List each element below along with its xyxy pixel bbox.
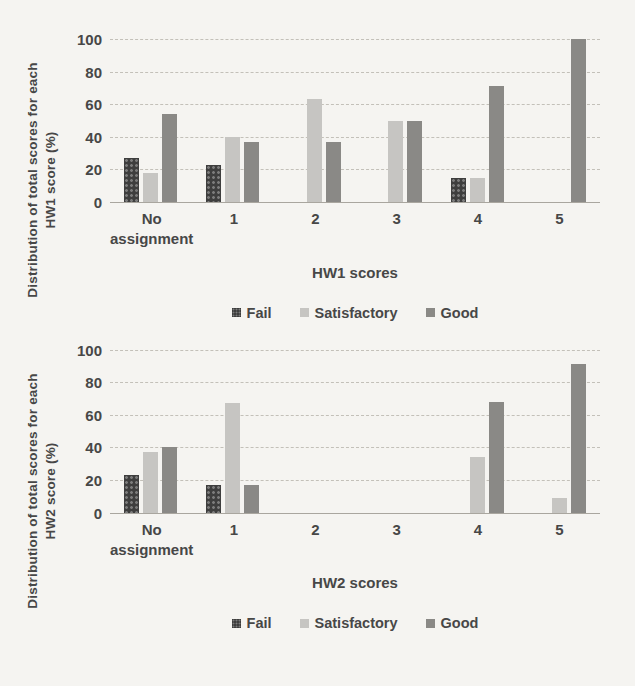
bar-good <box>162 447 177 512</box>
x-tick-label: 4 <box>437 209 518 250</box>
bar-satisfactory <box>225 137 240 202</box>
x-tick-label: 4 <box>437 520 518 561</box>
y-tick-label: 0 <box>94 195 102 210</box>
y-tick-label: 20 <box>85 473 102 488</box>
bar-group <box>518 40 600 203</box>
hw1-plot-area <box>110 40 600 203</box>
legend-label: Good <box>441 305 479 321</box>
bar-satisfactory <box>143 452 158 512</box>
hw1-y-axis: 020406080100 <box>70 40 110 203</box>
legend-item-good: Good <box>426 305 479 321</box>
hw2-y-axis-title-column: Distribution of total scores for each HW… <box>14 351 70 632</box>
y-tick-label: 100 <box>77 343 102 358</box>
y-tick-label: 60 <box>85 97 102 112</box>
bar-group <box>518 351 600 514</box>
hw2-y-axis: 020406080100 <box>70 351 110 514</box>
legend-item-satisfactory: Satisfactory <box>300 305 398 321</box>
hw2-legend: FailSatisfactoryGood <box>110 615 600 631</box>
legend-item-fail: Fail <box>232 305 272 321</box>
legend-swatch-icon <box>300 308 309 317</box>
bar-satisfactory <box>470 178 485 202</box>
y-tick-label: 20 <box>85 162 102 177</box>
bar-satisfactory <box>470 457 485 512</box>
bar-good <box>244 485 259 513</box>
bar-group <box>355 40 437 203</box>
bar-good <box>162 114 177 202</box>
y-tick-label: 40 <box>85 130 102 145</box>
bar-fail <box>451 178 466 202</box>
hw2-y-axis-title: Distribution of total scores for each HW… <box>24 366 59 616</box>
hw1-y-axis-title: Distribution of total scores for each HW… <box>24 55 59 305</box>
hw1-distribution-chart: Distribution of total scores for each HW… <box>14 40 635 321</box>
hw1-x-axis: No assignment12345 <box>110 203 600 250</box>
x-tick-label: 3 <box>356 209 437 250</box>
legend-item-satisfactory: Satisfactory <box>300 615 398 631</box>
hw1-chart-row: Distribution of total scores for each HW… <box>14 40 635 321</box>
hw2-distribution-chart: Distribution of total scores for each HW… <box>14 351 635 632</box>
x-tick-label: No assignment <box>110 520 193 561</box>
y-tick-label: 60 <box>85 408 102 423</box>
bar-good <box>571 364 586 512</box>
hw1-plot-column: No assignment12345 HW1 scores FailSatisf… <box>110 40 600 321</box>
bar-satisfactory <box>552 498 567 513</box>
scanned-page: Distribution of total scores for each HW… <box>0 0 635 631</box>
bar-group <box>273 40 355 203</box>
bar-satisfactory <box>388 121 403 203</box>
legend-label: Fail <box>247 305 272 321</box>
legend-swatch-icon <box>426 308 435 317</box>
bar-good <box>489 86 504 202</box>
x-tick-label: 3 <box>356 520 437 561</box>
bar-groups <box>110 40 600 203</box>
bar-satisfactory <box>225 403 240 512</box>
hw2-x-axis: No assignment12345 <box>110 514 600 561</box>
hw1-x-axis-title: HW1 scores <box>110 264 600 281</box>
x-tick-label: 2 <box>275 520 356 561</box>
bar-group <box>110 40 192 203</box>
x-tick-label: 5 <box>519 209 600 250</box>
bar-groups <box>110 351 600 514</box>
bar-group <box>192 351 274 514</box>
legend-item-fail: Fail <box>232 615 272 631</box>
bar-satisfactory <box>307 99 322 202</box>
hw2-x-axis-title: HW2 scores <box>110 574 600 591</box>
bar-group <box>192 40 274 203</box>
hw2-chart-row: Distribution of total scores for each HW… <box>14 351 635 632</box>
bar-good <box>326 142 341 202</box>
bar-fail <box>124 475 139 512</box>
bar-satisfactory <box>143 173 158 202</box>
bar-fail <box>206 165 221 202</box>
y-tick-label: 80 <box>85 65 102 80</box>
legend-swatch-icon <box>300 619 309 628</box>
x-tick-label: 2 <box>275 209 356 250</box>
x-tick-label: No assignment <box>110 209 193 250</box>
legend-label: Satisfactory <box>315 305 398 321</box>
x-tick-label: 5 <box>519 520 600 561</box>
bar-group <box>273 351 355 514</box>
legend-label: Fail <box>247 615 272 631</box>
legend-label: Satisfactory <box>315 615 398 631</box>
bar-group <box>355 351 437 514</box>
x-tick-label: 1 <box>193 209 274 250</box>
hw2-plot-column: No assignment12345 HW2 scores FailSatisf… <box>110 351 600 632</box>
bar-fail <box>206 485 221 513</box>
bar-good <box>244 142 259 202</box>
legend-item-good: Good <box>426 615 479 631</box>
y-tick-label: 80 <box>85 375 102 390</box>
legend-swatch-icon <box>426 619 435 628</box>
y-tick-label: 0 <box>94 506 102 521</box>
legend-swatch-icon <box>232 619 241 628</box>
hw1-legend: FailSatisfactoryGood <box>110 305 600 321</box>
bar-good <box>571 39 586 202</box>
x-tick-label: 1 <box>193 520 274 561</box>
legend-label: Good <box>441 615 479 631</box>
hw1-y-axis-title-column: Distribution of total scores for each HW… <box>14 40 70 321</box>
bar-group <box>110 351 192 514</box>
bar-fail <box>124 158 139 202</box>
legend-swatch-icon <box>232 308 241 317</box>
bar-good <box>489 402 504 513</box>
bar-group <box>437 40 519 203</box>
y-tick-label: 100 <box>77 32 102 47</box>
y-tick-label: 40 <box>85 440 102 455</box>
bar-group <box>437 351 519 514</box>
bar-good <box>407 121 422 203</box>
